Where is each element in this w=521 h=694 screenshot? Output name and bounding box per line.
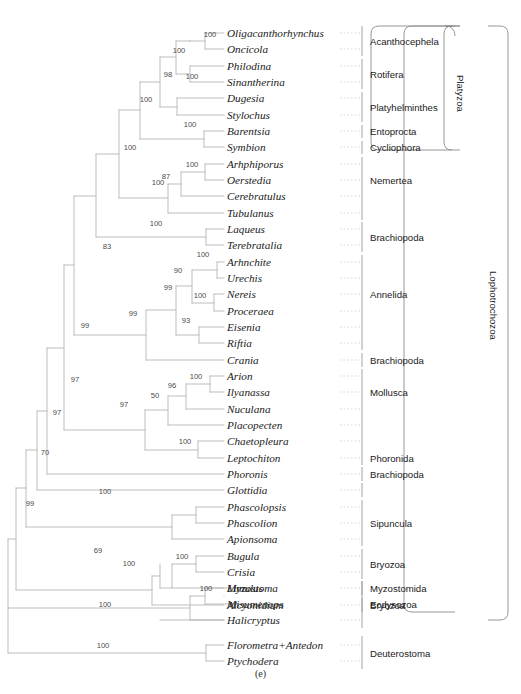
bootstrap-support-value: 100: [197, 250, 210, 259]
taxon-label: Philodina: [227, 61, 271, 72]
taxon-label: Florometra+Antedon: [227, 640, 323, 651]
bootstrap-support-value: 99: [164, 283, 172, 292]
taxon-label: Cerebratulus: [227, 191, 286, 202]
group-label: Entoprocta: [370, 126, 416, 137]
taxon-label: Halicryptus: [227, 615, 280, 626]
taxon-label: Phascolopsis: [227, 502, 286, 513]
bootstrap-support-value: 100: [186, 160, 199, 169]
taxon-label: Laqueus: [227, 224, 265, 235]
taxon-label: Glottidia: [227, 485, 267, 496]
taxon-label: Oncicola: [227, 44, 268, 55]
bootstrap-support-value: 83: [103, 242, 111, 251]
bootstrap-support-value: 100: [152, 178, 165, 187]
bootstrap-support-value: 99: [81, 321, 89, 330]
taxon-label: Placopecten: [227, 420, 282, 431]
group-label: Rotifera: [370, 69, 404, 80]
taxon-label: Phascolion: [227, 518, 277, 529]
taxon-label: Phoronis: [227, 469, 268, 480]
taxon-label: Terebratalia: [227, 240, 282, 251]
taxon-label: Crania: [227, 355, 259, 366]
bootstrap-support-value: 100: [194, 291, 207, 300]
taxon-label: Misumenops: [227, 599, 284, 610]
bootstrap-support-value: 100: [124, 143, 137, 152]
bootstrap-support-value: 100: [99, 487, 112, 496]
bootstrap-support-value: 50: [151, 391, 159, 400]
bootstrap-support-value: 99: [26, 499, 34, 508]
taxon-label: Proceraea: [227, 306, 274, 317]
taxon-label: Apionsoma: [227, 534, 277, 545]
panel-caption: (e): [0, 668, 521, 679]
bootstrap-support-value: 100: [97, 641, 110, 650]
bootstrap-support-value: 100: [176, 552, 189, 561]
phylogenetic-tree-figure: OligacanthorhynchusOncicolaPhilodinaSina…: [0, 0, 521, 694]
taxon-label: Oerstedia: [227, 175, 271, 186]
bootstrap-support-value: 70: [41, 448, 49, 457]
group-label: Brachiopoda: [370, 232, 424, 243]
bootstrap-support-value: 100: [190, 372, 203, 381]
taxon-label: Arhnchite: [227, 257, 271, 268]
superclade-label: Platyzoa: [455, 75, 466, 112]
taxon-label: Arion: [227, 371, 252, 382]
bootstrap-support-value: 97: [53, 408, 61, 417]
taxon-label: Symbion: [227, 142, 266, 153]
group-label: Cycliophora: [370, 142, 421, 153]
taxon-label: Stylochus: [227, 110, 270, 121]
taxon-label: Ptychodera: [227, 656, 279, 667]
taxon-label: Crisia: [227, 567, 255, 578]
taxon-label: Tubulanus: [227, 208, 274, 219]
group-label: Acanthocephela: [370, 36, 439, 47]
superclade-label: Lophotrochozoa: [488, 271, 499, 340]
taxon-label: Chaetopleura: [227, 436, 289, 447]
group-label: Myzostomida: [370, 583, 427, 594]
bootstrap-support-value: 100: [186, 72, 199, 81]
bootstrap-support-value: 100: [150, 219, 163, 228]
group-label: Phoronida: [370, 453, 414, 464]
bootstrap-support-value: 100: [200, 584, 213, 593]
bootstrap-support-value: 98: [164, 70, 172, 79]
taxon-label: Limulus: [227, 583, 263, 594]
bootstrap-support-value: 96: [168, 381, 176, 390]
bootstrap-support-value: 99: [129, 309, 137, 318]
taxon-label: Nereis: [227, 289, 256, 300]
taxon-label: Ilyanassa: [227, 387, 270, 398]
bootstrap-support-value: 97: [120, 400, 128, 409]
group-label: Annelida: [370, 289, 407, 300]
group-label: Ecdysozoa: [370, 599, 417, 610]
taxon-label: Bugula: [227, 551, 259, 562]
group-label: Mollusca: [370, 387, 408, 398]
group-label: Platyhelminthes: [370, 102, 438, 113]
group-label: Brachiopoda: [370, 469, 424, 480]
taxon-label: Riftia: [227, 338, 252, 349]
group-label: Deuterostoma: [370, 648, 430, 659]
bootstrap-support-value: 100: [179, 437, 192, 446]
taxon-label: Eisenia: [227, 322, 261, 333]
group-label: Brachiopoda: [370, 355, 424, 366]
taxon-label: Barentsia: [227, 126, 270, 137]
group-label: Bryozoa: [370, 559, 405, 570]
bootstrap-support-value: 93: [182, 316, 190, 325]
taxon-label: Urechis: [227, 273, 262, 284]
taxon-label: Sinantherina: [227, 77, 285, 88]
taxon-label: Leptochiton: [227, 453, 280, 464]
bootstrap-support-value: 100: [140, 95, 153, 104]
group-label: Sipuncula: [370, 518, 412, 529]
group-label: Nemertea: [370, 175, 412, 186]
bootstrap-support-value: 97: [71, 375, 79, 384]
bootstrap-support-value: 69: [94, 546, 102, 555]
bootstrap-support-value: 100: [204, 30, 217, 39]
bootstrap-support-value: 100: [99, 600, 112, 609]
bootstrap-support-value: 100: [123, 559, 136, 568]
taxon-label: Arhphiporus: [227, 159, 283, 170]
taxon-label: Dugesia: [227, 93, 264, 104]
bootstrap-support-value: 100: [184, 120, 197, 129]
taxon-label: Nuculana: [227, 404, 271, 415]
taxon-label: Oligacanthorhynchus: [227, 28, 324, 39]
bootstrap-support-value: 100: [173, 46, 186, 55]
bootstrap-support-value: 90: [174, 266, 182, 275]
